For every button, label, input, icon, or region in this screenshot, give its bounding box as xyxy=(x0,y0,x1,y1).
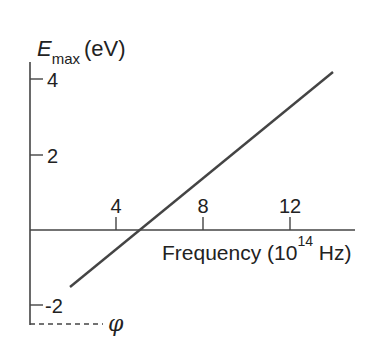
y-axis-label: Emax(eV) xyxy=(37,36,126,67)
phi-label: φ xyxy=(108,311,124,336)
y-tick-label: -2 xyxy=(45,295,63,317)
y-tick-label: 2 xyxy=(47,145,58,167)
x-axis-label: Frequency (1014 Hz) xyxy=(162,233,351,264)
chart: 4 2 -2 4 8 12 Emax(eV) Frequency (1014 H… xyxy=(0,0,379,346)
y-tick-label: 4 xyxy=(47,69,58,91)
x-tick-label: 4 xyxy=(110,195,121,217)
x-tick-label: 12 xyxy=(279,195,301,217)
x-tick-label: 8 xyxy=(197,195,208,217)
